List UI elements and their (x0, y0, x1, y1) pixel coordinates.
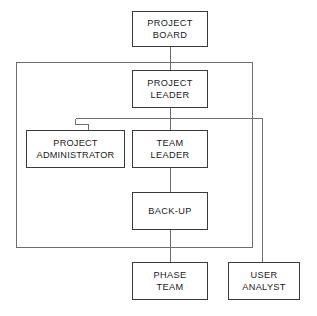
node-back-up[interactable]: BACK-UP (132, 192, 208, 230)
node-team-leader-line-1: TEAM (157, 137, 184, 149)
node-project-administrator-line-1: PROJECT (53, 137, 97, 149)
node-phase-team-line-1: PHASE (154, 269, 187, 281)
node-project-board-line-2: BOARD (153, 29, 187, 41)
wire-splitter-to-project-administrator (76, 119, 89, 131)
node-team-leader-line-2: LEADER (151, 149, 190, 161)
node-team-leader[interactable]: TEAM LEADER (132, 130, 208, 168)
node-phase-team-line-2: TEAM (157, 281, 184, 293)
node-project-leader-line-1: PROJECT (147, 77, 192, 89)
node-project-board[interactable]: PROJECT BOARD (132, 11, 208, 47)
node-user-analyst[interactable]: USER ANALYST (228, 262, 300, 300)
node-project-leader[interactable]: PROJECT LEADER (132, 70, 208, 108)
node-user-analyst-line-1: USER (251, 269, 278, 281)
node-project-leader-line-2: LEADER (151, 89, 190, 101)
node-back-up-line-1: BACK-UP (148, 205, 191, 217)
org-chart-canvas: PROJECT BOARD PROJECT LEADER PROJECT ADM… (0, 0, 317, 316)
node-user-analyst-line-2: ANALYST (242, 281, 286, 293)
node-phase-team[interactable]: PHASE TEAM (132, 262, 208, 300)
node-project-board-line-1: PROJECT (147, 17, 192, 29)
node-project-administrator[interactable]: PROJECT ADMINISTRATOR (26, 130, 125, 168)
node-project-administrator-line-2: ADMINISTRATOR (37, 149, 115, 161)
